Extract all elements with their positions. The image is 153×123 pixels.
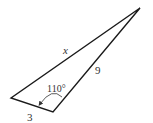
side-label-x: x [62, 44, 68, 56]
angle-label: 110° [47, 83, 66, 94]
side-label-3: 3 [27, 111, 33, 123]
side-label-9: 9 [95, 64, 101, 76]
angle-arc-arrow [40, 93, 62, 104]
triangle-shape [11, 8, 140, 112]
triangle-diagram: x 9 3 110° [0, 0, 153, 123]
